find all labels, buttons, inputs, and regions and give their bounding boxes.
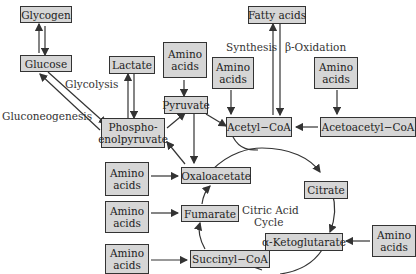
node-amino-acids-succinyl: Aminoacids — [105, 244, 149, 274]
node-amino-acids-fumarate: Aminoacids — [105, 201, 149, 233]
node-citrate: Citrate — [304, 181, 348, 199]
node-oxaloacetate: Oxaloacetate — [181, 167, 251, 184]
node-phosphoenolpyruvate: Phospho-enolpyruvate — [101, 118, 165, 148]
node-amino-acids-pyruvate: Aminoacids — [163, 42, 207, 78]
node-glucose: Glucose — [20, 55, 72, 72]
node-fatty-acids: Fatty acids — [248, 6, 306, 24]
label-synthesis: Synthesis — [226, 41, 277, 53]
node-acetyl-coa: Acetyl−CoA — [226, 117, 292, 137]
label-cycle: Cycle — [254, 216, 283, 228]
node-pyruvate: Pyruvate — [164, 96, 208, 114]
node-acetoacetyl-coa: Acetoacetyl−CoA — [320, 117, 416, 137]
node-fumarate: Fumarate — [181, 205, 239, 222]
node-amino-acids-acetoacetyl: Aminoacids — [314, 57, 358, 89]
arrows-layer — [0, 0, 416, 274]
label-glycolysis: Glycolysis — [65, 78, 118, 90]
label-citric-acid: Citric Acid — [242, 204, 299, 216]
node-lactate: Lactate — [109, 56, 155, 74]
node-amino-acids-akg: Aminoacids — [372, 225, 416, 257]
node-succinyl-coa: Succinyl−CoA — [190, 250, 270, 268]
node-amino-acids-oxaloacetate: Aminoacids — [105, 162, 149, 196]
label-gluconeogenesis: Gluconeogenesis — [2, 110, 92, 122]
node-amino-acids-acetyl: Aminoacids — [212, 57, 254, 89]
node-glycogen: Glycogen — [20, 6, 72, 23]
node-alpha-ketoglutarate: α-Ketoglutarate — [265, 233, 343, 251]
label-beta-oxidation: β-Oxidation — [285, 41, 346, 53]
metabolic-pathway-diagram: Glycogen Glucose Lactate Aminoacids Pyru… — [0, 0, 416, 274]
